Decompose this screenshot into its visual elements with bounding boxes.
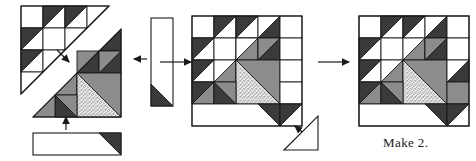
block-grid	[359, 16, 469, 126]
side-strip-top	[280, 16, 302, 38]
step-1-exploded-block	[0, 0, 170, 161]
block-grid	[192, 16, 302, 126]
hst-r1c0	[21, 28, 43, 50]
hst-r0c2	[403, 16, 425, 38]
stipple-square	[236, 60, 280, 104]
hst-r0c2	[236, 16, 258, 38]
hst-r2c0	[359, 60, 381, 82]
hst-r2c1	[381, 60, 403, 82]
hst-r2c1	[214, 60, 236, 82]
hst-r3c1	[214, 82, 236, 104]
hst-r0c1	[43, 6, 65, 28]
hst-r0c3	[258, 16, 280, 38]
stipple-square	[403, 60, 447, 104]
hst-r0c1	[214, 16, 236, 38]
hst-r3c0	[359, 82, 381, 104]
hst-r1c3	[258, 38, 280, 60]
hst-r1c3	[425, 38, 447, 60]
hst-r3c0	[192, 82, 214, 104]
corner-cell	[447, 104, 469, 126]
hst-r1c0	[359, 38, 381, 60]
hst-r0c3	[425, 16, 447, 38]
hst-r1c3	[99, 51, 121, 73]
arrow-step2-to-step3	[318, 52, 358, 72]
hst-r1c2	[236, 38, 258, 60]
hst-r2c0	[21, 50, 43, 72]
stipple-square	[77, 73, 121, 117]
hst-r0c2	[65, 6, 87, 28]
step-3-finished-block	[357, 14, 476, 132]
hst-r1c2	[403, 38, 425, 60]
hst-r1c0	[192, 38, 214, 60]
hst-r3c1	[55, 95, 77, 117]
hst-r3c1	[381, 82, 403, 104]
step-2-joined-block	[190, 14, 320, 154]
make-2-caption: Make 2.	[383, 135, 428, 151]
bottom-strip	[33, 133, 121, 155]
corner-cell	[280, 104, 302, 126]
hst-r2c4	[447, 60, 469, 82]
hst-r2c0	[192, 60, 214, 82]
hst-r0c1	[381, 16, 403, 38]
